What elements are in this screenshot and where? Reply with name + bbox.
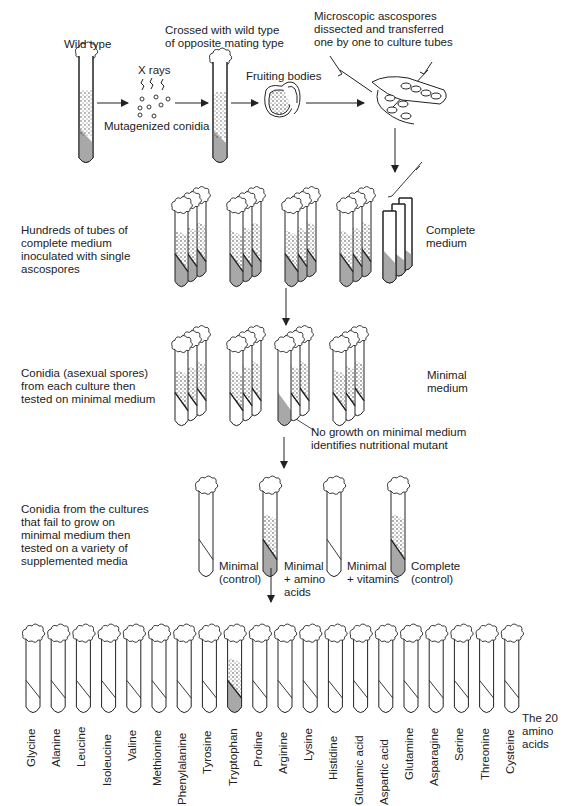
fruiting-bodies-label: Fruiting bodies (246, 70, 321, 83)
dissection-needles-icon (330, 56, 446, 124)
amino-acid-label: Proline (252, 732, 264, 768)
amino-acid-label: Phenylalanine (176, 732, 188, 804)
tube-label-minimal-amino-acids: Minimal + amino acids (284, 560, 325, 599)
empty-complete-medium-tubes (383, 198, 412, 283)
conidia-spores-icon (138, 95, 170, 118)
crossed-tube (209, 48, 231, 163)
tube-label-complete-control: Complete (control) (411, 560, 460, 586)
amino-acid-label: Lysine (302, 728, 314, 761)
minimal-medium-tube-groups (172, 326, 369, 426)
dissection-label: Microscopic ascospores dissected and tra… (314, 10, 453, 49)
wild-type-label: Wild type (64, 38, 111, 51)
minimal-medium-label: Minimal medium (427, 369, 468, 395)
wild-type-tube (75, 42, 97, 163)
amino-acid-label: Cysteine (504, 729, 516, 774)
fruiting-bodies-icon (265, 82, 300, 117)
amino-acid-label: Arginine (277, 731, 289, 773)
amino-acid-label: Glutamic acid (353, 735, 365, 805)
crossed-label: Crossed with wild type of opposite matin… (165, 24, 284, 50)
complete-medium-tube-groups (172, 187, 376, 287)
amino-acid-label: Methionine (151, 730, 163, 786)
tube-label-minimal-vitamins: Minimal + vitamins (347, 560, 399, 586)
complete-medium-label: Complete medium (426, 224, 475, 250)
step2-description: Hundreds of tubes of complete medium ino… (21, 224, 130, 276)
amino-acid-label: Threonine (479, 728, 491, 780)
twenty-amino-acids-label: The 20 amino acids (522, 712, 558, 751)
step3-description: Conidia (asexual spores) from each cultu… (21, 367, 155, 406)
amino-acid-label: Aspartic acid (378, 739, 390, 805)
step4-description: Conidia from the cultures that fail to g… (21, 503, 149, 568)
amino-acid-tubes (22, 624, 523, 713)
amino-acid-label: Leucine (75, 727, 87, 767)
amino-acid-label: Serine (453, 728, 465, 761)
amino-acid-label: Glutamine (403, 727, 415, 779)
amino-acid-label: Isoleucine (101, 734, 113, 786)
amino-acid-label: Tryptophan (227, 728, 239, 786)
amino-acid-label: Alanine (50, 729, 62, 767)
amino-acid-label: Asparagine (428, 728, 440, 786)
xray-icon (141, 78, 164, 90)
tube-label-minimal-control: Minimal (control) (219, 560, 261, 586)
xrays-label: X rays (138, 64, 171, 77)
amino-acid-label: Valine (126, 730, 138, 761)
no-growth-callout: No growth on minimal medium identifies n… (311, 426, 466, 452)
amino-acid-label: Glycine (25, 729, 37, 767)
amino-acid-label: Tyrosine (201, 730, 213, 773)
mutagenized-conidia-label: Mutagenized conidia (104, 120, 210, 133)
amino-acid-label: Histidine (327, 736, 339, 780)
transfer-needle-icon (388, 162, 422, 197)
